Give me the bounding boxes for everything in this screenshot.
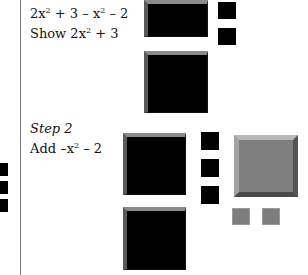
expr-part: 2x (30, 6, 46, 21)
x-squared-tile-negative (234, 135, 298, 197)
step2-title: Step 2 (30, 121, 73, 137)
expr-part: + 3 – x (51, 6, 101, 21)
x-squared-tile-positive (144, 0, 208, 37)
unit-tile-positive (201, 186, 219, 204)
unit-tile-positive (201, 132, 219, 150)
unit-tile-positive (218, 28, 236, 45)
instr-part: Add –x (30, 141, 74, 156)
instr-part: – 2 (79, 141, 102, 156)
unit-tile-left-3 (0, 199, 8, 212)
x-squared-tile-positive (123, 133, 186, 195)
step1-instruction: Show 2x2 + 3 (30, 26, 119, 42)
instr-part: + 3 (91, 26, 118, 41)
unit-tile-left-1 (0, 163, 8, 176)
x-squared-tile-positive (123, 207, 186, 270)
x-squared-tile-positive (144, 51, 208, 113)
step1-expression: 2x2 + 3 – x2 – 2 (30, 6, 128, 22)
unit-tile-positive (201, 159, 219, 177)
expr-part: – 2 (105, 6, 128, 21)
unit-tile-negative (262, 208, 280, 225)
page-divider (20, 0, 21, 275)
unit-tile-negative (232, 208, 250, 225)
unit-tile-positive (218, 2, 236, 19)
unit-tile-left-2 (0, 181, 8, 194)
step2-instruction: Add –x2 – 2 (30, 141, 102, 157)
instr-part: Show 2x (30, 26, 86, 41)
